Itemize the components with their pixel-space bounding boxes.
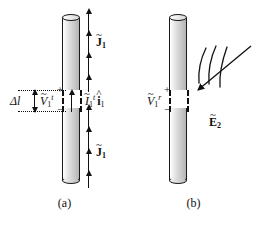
voltage-plus-sign-b: +: [164, 84, 170, 95]
incident-field-label-b: ~E2: [209, 116, 221, 130]
current-symbol-a: I: [85, 94, 89, 108]
voltage-label-b: ~V1r: [147, 94, 161, 109]
current-density-symbol-upper-a: J: [96, 35, 102, 49]
current-density-sub-lower-a: 1: [102, 151, 106, 160]
rod-cap-bottom-icon: [62, 177, 80, 184]
antenna-figure: Δl + − ~V1t ~I1t^i1 ~J1 ~J1 (a) + −: [0, 0, 258, 226]
incident-field-symbol-b: E: [209, 115, 217, 129]
terminal-current-label-a: ~I1t^i1: [85, 94, 105, 109]
unit-vector-sub-a: 1: [101, 100, 105, 109]
voltage-symbol-b: V: [147, 94, 154, 108]
voltage-plus-sign-a: +: [57, 84, 63, 95]
rod-cap-top-icon: [62, 14, 80, 21]
panel-a: Δl + − ~V1t ~I1t^i1 ~J1 ~J1 (a): [0, 0, 129, 226]
voltage-label-a: ~V1t: [40, 94, 54, 109]
voltage-minus-sign-b: −: [164, 104, 170, 115]
gap-line-right-a: [80, 90, 82, 112]
delta-l-label: Δl: [10, 95, 20, 107]
rod-cap-bottom-icon: [169, 177, 187, 184]
incident-field-sub-b: 2: [217, 121, 221, 130]
gap-current-axis-a: [71, 92, 72, 112]
voltage-sup-a: t: [51, 93, 53, 102]
caption-b: (b): [129, 196, 258, 211]
current-axis-lower-a: [88, 108, 89, 188]
dipole-arm-lower-a: [62, 108, 80, 180]
incident-wave-graphic: [187, 38, 258, 110]
dipole-arm-upper-b: [169, 18, 187, 90]
current-density-sub-upper-a: 1: [102, 41, 106, 50]
rod-cap-top-icon: [169, 14, 187, 21]
caption-a: (a): [0, 196, 129, 211]
dim-bar-a: [34, 90, 35, 112]
unit-vector-symbol-a: i: [97, 94, 100, 108]
voltage-sup-b: r: [158, 93, 161, 102]
current-density-lower-label-a: ~J1: [96, 146, 106, 160]
current-sup-a: t: [93, 93, 95, 102]
wavefront-arcs: [199, 46, 227, 87]
current-density-symbol-lower-a: J: [96, 145, 102, 159]
current-density-upper-label-a: ~J1: [96, 36, 106, 50]
panel-b: + − ~V1r ~E2 (b): [129, 0, 258, 226]
dipole-arm-upper-a: [62, 18, 80, 90]
voltage-symbol-a: V: [40, 94, 47, 108]
current-axis-upper-a: [88, 12, 89, 92]
dipole-arm-lower-b: [169, 108, 187, 180]
voltage-minus-sign-a: −: [57, 104, 63, 115]
